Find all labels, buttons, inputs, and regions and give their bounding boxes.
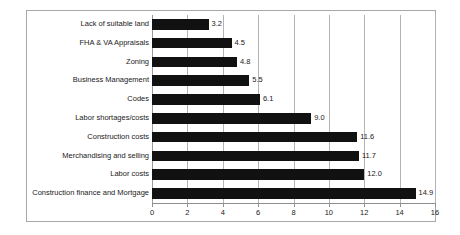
x-tick-12 [364,203,365,207]
category-label: FHA & VA Appraisals [80,37,149,49]
x-tick-10 [329,203,330,207]
category-axis-labels: Lack of suitable landFHA & VA Appraisals… [26,15,149,203]
x-tick-16 [435,203,436,207]
gridline-16 [435,15,436,203]
bar-row: 11.7 [152,147,435,166]
bar-value-label: 9.0 [311,112,324,124]
x-tick-14 [400,203,401,207]
x-tick-0 [152,203,153,207]
bar-row: 9.0 [152,109,435,128]
bar-row: 3.2 [152,15,435,34]
bar [152,151,359,162]
x-tick-6 [258,203,259,207]
x-tick-label: 4 [213,208,233,218]
category-label: Zoning [126,56,149,68]
bar-value-label: 4.8 [237,56,250,68]
category-label: Business Management [73,74,149,86]
plot-area: 3.24.54.85.56.19.011.611.712.014.9 [152,15,435,203]
bar [152,57,237,68]
x-tick-label: 6 [248,208,268,218]
bar-chart-figure: Lack of suitable landFHA & VA Appraisals… [0,0,460,235]
x-tick-label: 14 [390,208,410,218]
x-tick-label: 10 [319,208,339,218]
bar [152,113,311,124]
x-tick-2 [187,203,188,207]
bar-row: 11.6 [152,128,435,147]
x-tick-4 [223,203,224,207]
bar-value-label: 4.5 [232,37,245,49]
x-tick-8 [294,203,295,207]
bar-value-label: 5.5 [249,74,262,86]
bar-row: 5.5 [152,71,435,90]
category-label: Codes [127,93,149,105]
bar-value-label: 11.6 [357,131,374,143]
category-label: Construction costs [87,131,149,143]
bar [152,188,416,199]
x-tick-label: 2 [177,208,197,218]
bar-value-label: 3.2 [209,18,222,30]
bar-row: 6.1 [152,90,435,109]
x-tick-label: 0 [142,208,162,218]
bar [152,132,357,143]
category-label: Labor costs [110,168,149,180]
bar-row: 4.8 [152,53,435,72]
category-label: Merchandising and selling [62,150,149,162]
category-label: Lack of suitable land [81,18,149,30]
bar [152,19,209,30]
bar-row: 12.0 [152,165,435,184]
bar [152,75,249,86]
category-label: Labor shortages/costs [75,112,149,124]
bar-row: 14.9 [152,184,435,203]
bar-value-label: 12.0 [364,168,382,180]
bar [152,38,232,49]
bar [152,94,260,105]
bar [152,169,364,180]
bar-row: 4.5 [152,34,435,53]
bar-value-label: 14.9 [416,187,434,199]
x-tick-label: 12 [354,208,374,218]
x-tick-label: 16 [425,208,445,218]
category-label: Construction finance and Mortgage [32,187,149,199]
bar-value-label: 6.1 [260,93,273,105]
x-tick-label: 8 [284,208,304,218]
bar-value-label: 11.7 [359,150,376,162]
